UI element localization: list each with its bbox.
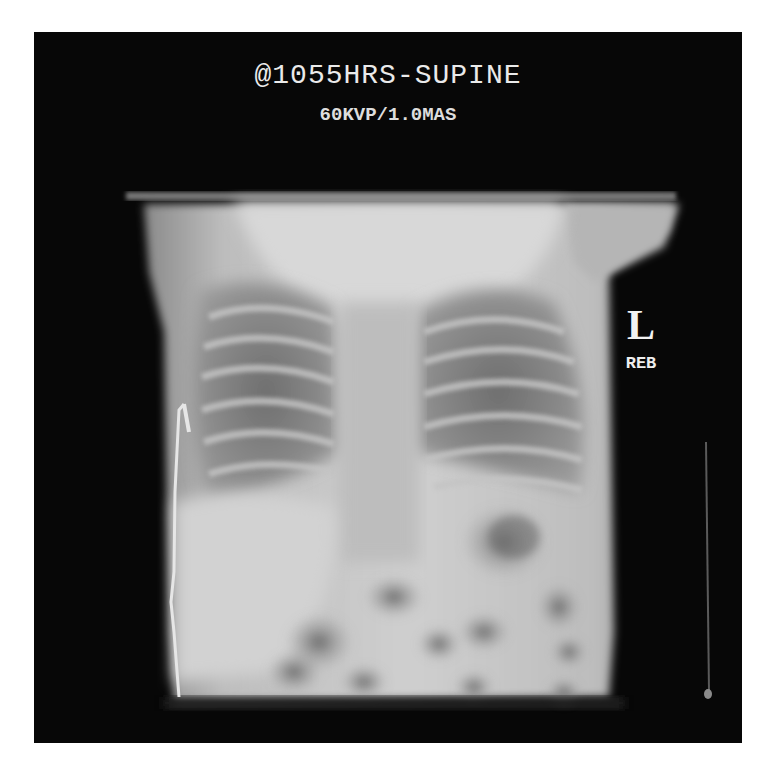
study-time-label: @1055HRS-SUPINE	[34, 60, 742, 91]
xray-film: @1055HRS-SUPINE 60KVP/1.0MAS L REB	[34, 32, 742, 743]
xray-anatomy	[34, 32, 742, 743]
tech-initials: REB	[612, 354, 670, 373]
side-marker: L	[619, 304, 663, 346]
exposure-label: 60KVP/1.0MAS	[34, 104, 742, 126]
